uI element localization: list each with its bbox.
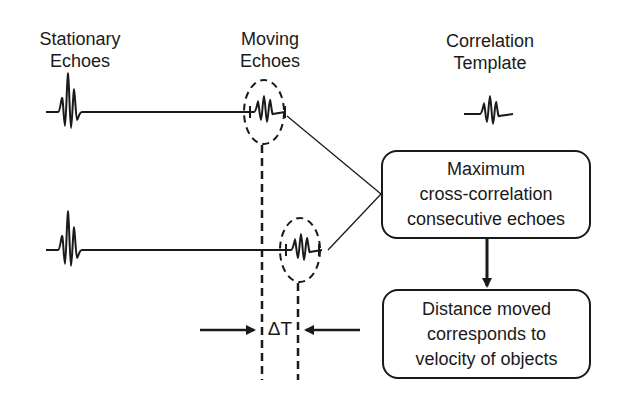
moving-echo-2 — [285, 234, 322, 260]
label-line: Stationary — [20, 28, 140, 50]
box-line: velocity of objects — [384, 347, 589, 372]
label-line: Echoes — [220, 50, 320, 72]
box-line: Maximum — [383, 157, 589, 182]
box-line: Distance moved — [384, 297, 589, 322]
correlation-template-waveform — [464, 96, 513, 124]
stationary-echo-2 — [46, 212, 82, 266]
moving-echo-1 — [248, 96, 285, 122]
delta-t-label: ΔT — [262, 318, 298, 340]
correlation-template-label: Correlation Template — [425, 30, 555, 74]
connector-top — [287, 116, 381, 194]
box-line: consecutive echoes — [383, 207, 589, 232]
connector-bottom — [328, 194, 381, 250]
velocity-result-box: Distance moved corresponds to velocity o… — [382, 289, 591, 379]
label-line: Moving — [220, 28, 320, 50]
stationary-echoes-label: Stationary Echoes — [20, 28, 140, 72]
stationary-echo-1 — [46, 74, 82, 128]
box-line: corresponds to — [384, 322, 589, 347]
label-line: Template — [425, 52, 555, 74]
label-line: Echoes — [20, 50, 140, 72]
echo-trace-1 — [46, 74, 285, 128]
moving-echoes-label: Moving Echoes — [220, 28, 320, 72]
box-line: cross-correlation — [383, 182, 589, 207]
max-cross-correlation-box: Maximum cross-correlation consecutive ec… — [381, 150, 591, 239]
label-line: Correlation — [425, 30, 555, 52]
